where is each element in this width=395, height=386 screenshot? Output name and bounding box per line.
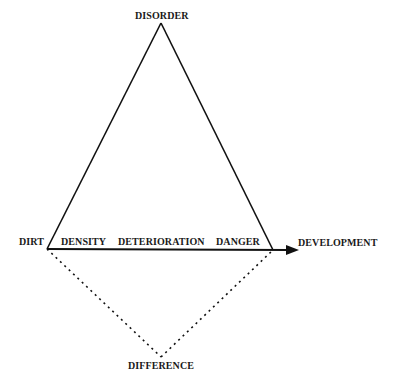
node-label-development: DEVELOPMENT	[298, 237, 377, 248]
edge-dirt-difference	[47, 249, 161, 357]
edge-difference-right-vertex	[161, 250, 273, 357]
node-label-disorder: DISORDER	[135, 10, 189, 21]
node-label-dirt: DIRT	[19, 236, 44, 247]
diagram-canvas	[0, 0, 395, 386]
baseline-label-deterioration: DETERIORATION	[118, 236, 205, 247]
edge-disorder-right-vertex	[161, 23, 273, 250]
baseline-label-density: DENSITY	[61, 236, 106, 247]
edge-dirt-disorder	[47, 23, 161, 249]
baseline-label-danger: DANGER	[216, 236, 260, 247]
edge-dirt-development	[47, 249, 288, 250]
node-label-difference: DIFFERENCE	[128, 360, 194, 371]
